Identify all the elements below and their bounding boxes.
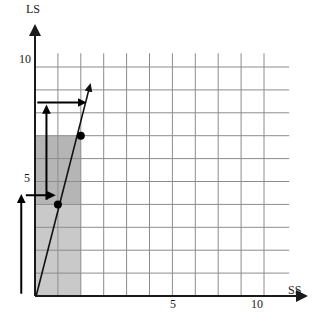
- y-axis-label: LS: [26, 2, 40, 17]
- x-axis-label: SS: [288, 283, 301, 298]
- lower-equilibrium-point: [54, 200, 62, 208]
- upper-equilibrium-point: [77, 132, 85, 140]
- coordinate-plane-svg: [0, 0, 315, 322]
- x-tick-label-10: 10: [251, 297, 263, 312]
- graph-figure: LS SS 10 5 5 10: [0, 0, 315, 322]
- y-tick-label-5: 5: [24, 171, 30, 186]
- y-tick-label-10: 10: [19, 52, 31, 67]
- x-tick-label-5: 5: [170, 297, 176, 312]
